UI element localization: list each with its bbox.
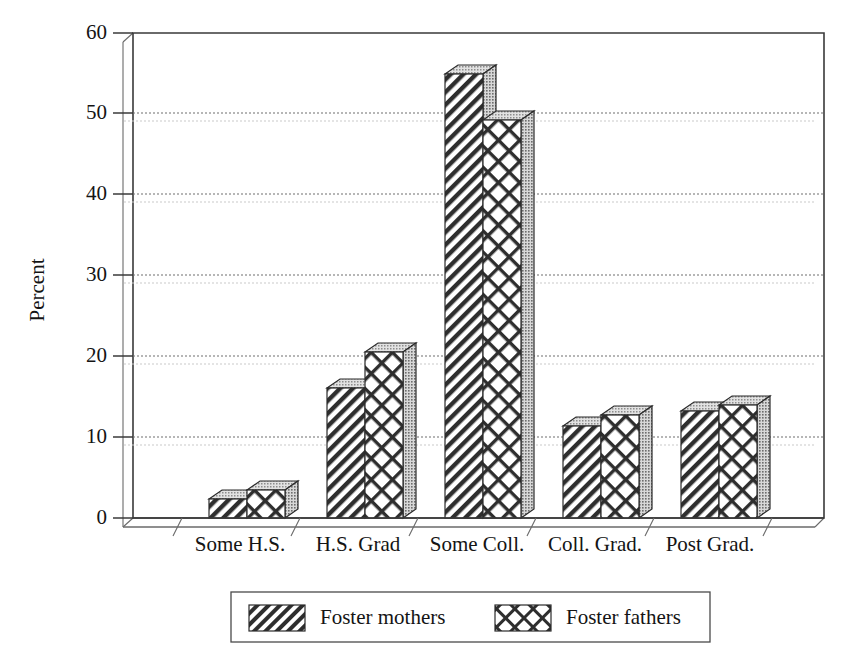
legend-label-foster-fathers: Foster fathers xyxy=(566,605,681,629)
bar-group-some-coll xyxy=(445,65,534,518)
legend-item-foster-fathers: Foster fathers xyxy=(495,605,681,631)
y-tick-label-20: 20 xyxy=(86,343,107,367)
bar-fathers-some-hs xyxy=(247,481,298,518)
bar-fathers-some-coll xyxy=(483,111,534,518)
bar-fathers-coll-grad xyxy=(601,406,652,518)
y-tick-label-40: 40 xyxy=(86,181,107,205)
legend-label-foster-mothers: Foster mothers xyxy=(320,605,445,629)
y-tick-label-50: 50 xyxy=(86,100,107,124)
x-axis-baseline xyxy=(123,518,824,527)
bar-fathers-hs-grad xyxy=(365,343,416,518)
y-axis: 60 50 40 30 20 10 0 Percent xyxy=(25,20,133,529)
x-tick-label-post-grad: Post Grad. xyxy=(666,532,755,556)
x-tick-label-coll-grad: Coll. Grad. xyxy=(548,532,642,556)
chart-svg: 60 50 40 30 20 10 0 Percent xyxy=(0,0,867,645)
bar-group-post-grad xyxy=(681,396,770,518)
y-tick-label-60: 60 xyxy=(86,20,107,44)
legend-swatch-cross-hatch-icon xyxy=(495,605,551,631)
bar-group-coll-grad xyxy=(563,406,652,518)
x-tick-label-some-hs: Some H.S. xyxy=(195,532,285,556)
y-tick-label-0: 0 xyxy=(97,505,108,529)
bars-layer xyxy=(209,65,770,518)
y-tick-label-30: 30 xyxy=(86,262,107,286)
bar-fathers-post-grad xyxy=(719,396,770,518)
legend: Foster mothers Foster fathers xyxy=(231,592,710,642)
bar-group-hs-grad xyxy=(327,343,416,518)
x-tick-label-some-coll: Some Coll. xyxy=(430,532,525,556)
bar-group-some-hs xyxy=(209,481,298,518)
legend-swatch-diagonal-hatch-icon xyxy=(249,605,305,631)
y-tick-label-10: 10 xyxy=(86,424,107,448)
x-tick-label-hs-grad: H.S. Grad xyxy=(316,532,401,556)
legend-item-foster-mothers: Foster mothers xyxy=(249,605,445,631)
x-axis-labels: Some H.S. H.S. Grad Some Coll. Coll. Gra… xyxy=(195,532,755,556)
y-axis-title: Percent xyxy=(25,258,49,321)
bar-chart-figure: 60 50 40 30 20 10 0 Percent xyxy=(0,0,867,645)
